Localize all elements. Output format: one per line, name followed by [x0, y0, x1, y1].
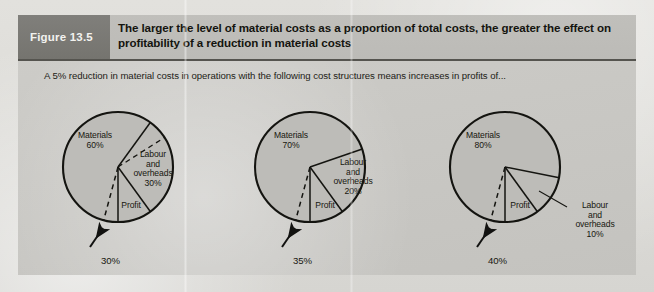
pie-3-result-percent: 40%: [488, 255, 507, 266]
figure-panel: Figure 13.5 The larger the level of mate…: [18, 15, 636, 275]
pie-1-result-percent: 30%: [101, 255, 120, 266]
pie-2-materials-label: Materials 70%: [256, 131, 326, 150]
pie-3-profit-label: Profit: [499, 201, 541, 211]
pie-2-labour-label: Labour and overheads 20%: [322, 158, 384, 196]
pie-1-callout-arrow: [90, 228, 103, 247]
pie-2-callout-arrow: [282, 228, 295, 247]
pie-3-materials-label: Materials 80%: [448, 131, 518, 150]
pie-2-result-percent: 35%: [293, 255, 312, 266]
pie-1-materials-label: Materials 60%: [60, 131, 130, 150]
pie-2-profit-label: Profit: [304, 201, 346, 211]
pie-3-callout-arrow: [477, 228, 490, 247]
pie-1-profit-label: Profit: [110, 201, 152, 211]
pie-1-labour-label: Labour and overheads 30%: [122, 150, 184, 188]
pie-3-labour-label: Labour and overheads 10%: [563, 201, 627, 239]
pie-chart-group: Materials 60% Labour and overheads 30% P…: [18, 15, 636, 275]
